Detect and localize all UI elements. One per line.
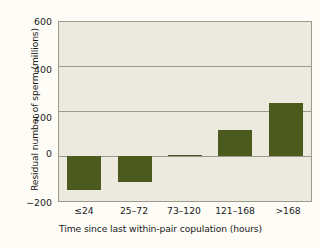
x-tick-label: >168 xyxy=(258,206,318,215)
x-axis-title: Time since last within-pair copulation (… xyxy=(0,223,321,234)
y-axis-tick-labels: 600 400 200 0 −200 xyxy=(4,0,52,248)
bar xyxy=(218,130,252,156)
y-tick-label: 0 xyxy=(6,149,52,158)
y-tick-label: 200 xyxy=(6,113,52,122)
y-tick-label: 400 xyxy=(6,65,52,74)
plot-inner xyxy=(59,22,311,201)
y-tick-label: 600 xyxy=(6,17,52,26)
bar xyxy=(67,156,101,190)
bar-chart-figure: Residual number of sperm (millions) 600 … xyxy=(0,0,321,248)
plot-area xyxy=(58,21,312,202)
y-tick-label: −200 xyxy=(6,198,52,207)
bar xyxy=(168,155,202,156)
gridline-400 xyxy=(59,66,311,67)
bar xyxy=(118,156,152,181)
bar xyxy=(269,103,303,156)
